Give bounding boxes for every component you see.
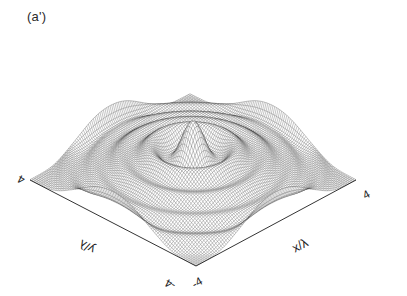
figure-panel: 4 4 -4 -4 y/λ x/λ (a') <box>0 0 407 296</box>
x-axis-min-tick: -4 <box>190 274 205 290</box>
panel-label: (a') <box>27 9 46 24</box>
y-axis-max-tick: 4 <box>15 172 27 186</box>
y-axis-min-tick: -4 <box>162 277 177 293</box>
x-axis-max-tick: 4 <box>360 187 372 201</box>
wireframe-mesh <box>30 94 356 266</box>
y-axis-title: y/λ <box>76 236 97 256</box>
x-axis-title: x/λ <box>290 235 311 255</box>
surface-plot-canvas: 4 4 -4 -4 y/λ x/λ <box>0 0 407 296</box>
